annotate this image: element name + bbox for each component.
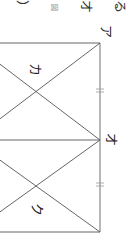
- label-ku: ク: [31, 203, 44, 216]
- header-text-1: る: [114, 0, 127, 13]
- label-ka: カ: [29, 63, 42, 76]
- header-text-3: 図: [50, 4, 57, 11]
- diagonal-upper-1: [0, 43, 100, 140]
- diagonal-lower-1: [0, 140, 100, 232]
- geometry-figure: [0, 0, 136, 244]
- diagonal-lower-2: [0, 140, 100, 232]
- diagonal-upper-2: [0, 43, 100, 140]
- header-text-4: ）: [16, 0, 29, 13]
- label-a: ア: [100, 25, 113, 38]
- label-o: オ: [105, 133, 118, 146]
- header-text-2: オ: [80, 0, 93, 13]
